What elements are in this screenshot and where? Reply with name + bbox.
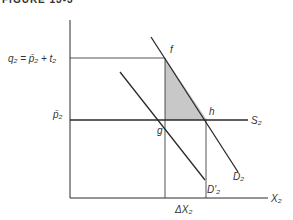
demand-line-d2 xyxy=(151,37,238,172)
supply-label: S₂ xyxy=(251,115,262,126)
diagram: FIGURE 13-3 q₂ = p̄₂ + t₂ p̄₂ f g h S₂ D… xyxy=(0,0,293,220)
q-label: q₂ = p̄₂ + t₂ xyxy=(8,53,56,64)
diagram-canvas: q₂ = p̄₂ + t₂ p̄₂ f g h S₂ D₂ D'₂ X₂ ΔX₂ xyxy=(0,0,293,220)
point-h-label: h xyxy=(209,106,215,117)
welfare-loss-triangle xyxy=(165,58,207,120)
demand-shifted-label: D'₂ xyxy=(207,184,220,195)
x-axis-label: X₂ xyxy=(270,193,282,204)
point-g-label: g xyxy=(157,125,163,136)
p-label: p̄₂ xyxy=(52,109,63,120)
figure-title: FIGURE 13-3 xyxy=(2,0,74,5)
point-f-label: f xyxy=(170,44,174,55)
demand-label: D₂ xyxy=(233,171,244,182)
delta-x-label: ΔX₂ xyxy=(174,204,192,215)
